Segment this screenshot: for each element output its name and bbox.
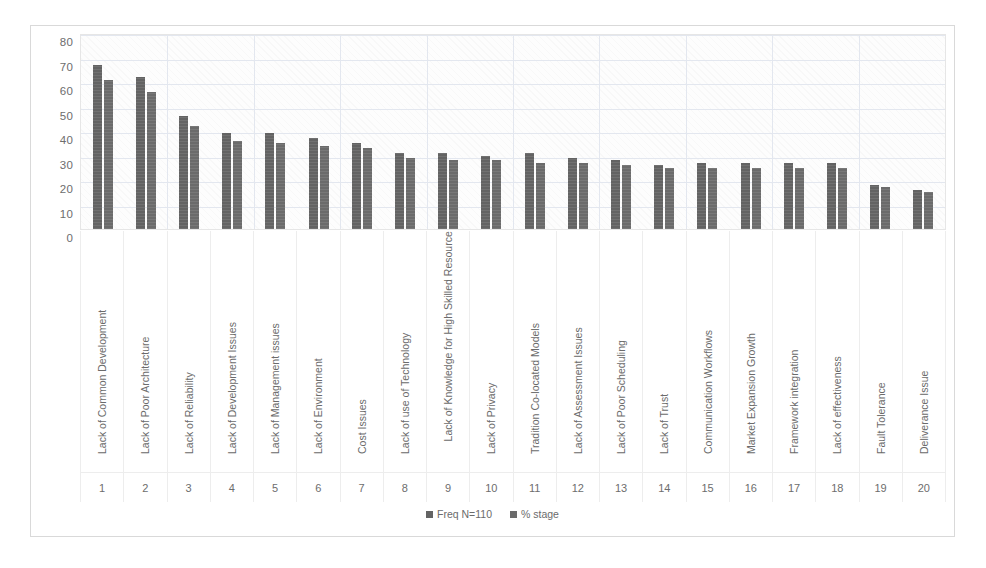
bar-freq [179, 116, 188, 229]
bar-freq [697, 163, 706, 229]
category-label: Tradition Co-located Models [529, 323, 541, 454]
index-label: 7 [341, 473, 384, 502]
bar-pct [622, 165, 631, 229]
bar-pct [147, 92, 156, 229]
category-label: Lack of Environment [312, 358, 324, 454]
category-label-band: Lack of Common DevelopmentLack of Poor A… [80, 231, 946, 472]
bar-group [643, 35, 686, 229]
bar-freq [481, 156, 490, 230]
index-label: 4 [211, 473, 254, 502]
index-label: 10 [470, 473, 513, 502]
category-label: Lack of Knowledge for High Skilled Resou… [442, 231, 454, 454]
bar-group [167, 35, 210, 229]
y-tick-label: 0 [66, 232, 73, 244]
category-label: Lack of Poor Scheduling [615, 340, 627, 454]
index-label: 16 [730, 473, 773, 502]
y-axis: 80706050403020100 [37, 34, 73, 230]
figure-page: 80706050403020100 Lack of Common Develop… [0, 0, 986, 568]
bar-pct [363, 148, 372, 229]
bar-pct [104, 80, 113, 229]
category-cell: Market Expansion Growth [730, 231, 773, 472]
index-label: 2 [124, 473, 167, 502]
bar-group [340, 35, 383, 229]
bar-group [124, 35, 167, 229]
category-label: Lack of use of Technology [399, 333, 411, 454]
category-cell: Lack of use of Technology [384, 231, 427, 472]
y-tick-label: 50 [60, 110, 73, 122]
category-label: Market Expansion Growth [745, 333, 757, 454]
bar-pct [795, 168, 804, 229]
bar-group [81, 35, 124, 229]
bar-freq [265, 133, 274, 229]
index-label: 11 [514, 473, 557, 502]
legend-item[interactable]: Freq N=110 [426, 508, 492, 520]
bar-freq [136, 77, 145, 229]
bar-group [211, 35, 254, 229]
bar-freq [352, 143, 361, 229]
category-cell: Lack of Poor Scheduling [600, 231, 643, 472]
index-label: 6 [297, 473, 340, 502]
bar-freq [654, 165, 663, 229]
y-tick-label: 40 [60, 134, 73, 146]
index-label: 19 [860, 473, 903, 502]
index-label: 20 [903, 473, 946, 502]
index-number-row: 1234567891011121314151617181920 [80, 472, 946, 502]
index-label: 3 [168, 473, 211, 502]
bar-freq [222, 133, 231, 229]
chart-frame: 80706050403020100 Lack of Common Develop… [30, 25, 955, 537]
y-tick-label: 80 [60, 36, 73, 48]
bar-pct [233, 141, 242, 229]
bar-freq [870, 185, 879, 229]
index-label: 13 [600, 473, 643, 502]
bar-freq [525, 153, 534, 229]
bar-pct [838, 168, 847, 229]
legend-swatch-icon [426, 511, 433, 518]
category-label: Lack of Reliability [183, 372, 195, 454]
category-label: Cost Issues [356, 399, 368, 454]
index-label: 14 [643, 473, 686, 502]
bar-group [556, 35, 599, 229]
category-cell: Framework integration [773, 231, 816, 472]
index-label: 9 [427, 473, 470, 502]
bar-pct [579, 163, 588, 229]
bar-group [686, 35, 729, 229]
legend-label: % stage [521, 508, 559, 520]
category-label: Lack of Assessment Issues [572, 327, 584, 454]
bar-freq [784, 163, 793, 229]
category-cell: Cost Issues [341, 231, 384, 472]
bar-pct [276, 143, 285, 229]
category-label: Lack of Privacy [485, 383, 497, 454]
bar-group [599, 35, 642, 229]
category-cell: Lack of Management issues [254, 231, 297, 472]
bar-freq [611, 160, 620, 229]
legend-item[interactable]: % stage [510, 508, 559, 520]
y-tick-label: 70 [60, 61, 73, 73]
y-tick-label: 10 [60, 208, 73, 220]
bar-group [297, 35, 340, 229]
chart-legend: Freq N=110% stage [31, 508, 954, 520]
bar-pct [924, 192, 933, 229]
legend-swatch-icon [510, 511, 517, 518]
category-cell: Lack of Knowledge for High Skilled Resou… [427, 231, 470, 472]
category-cell: Lack of Development Issues [211, 231, 254, 472]
category-label: Framework integration [788, 350, 800, 454]
bar-group [383, 35, 426, 229]
bar-pct [752, 168, 761, 229]
category-cell: Deliverance Issue [903, 231, 946, 472]
category-label: Lack of Poor Architecture [139, 337, 151, 454]
y-tick-label: 30 [60, 159, 73, 171]
category-label: Lack of Management issues [269, 323, 281, 454]
bar-freq [395, 153, 404, 229]
bar-group [902, 35, 945, 229]
legend-label: Freq N=110 [437, 508, 492, 520]
category-cell: Lack of Trust [643, 231, 686, 472]
bar-group [254, 35, 297, 229]
index-label: 1 [80, 473, 124, 502]
bars-layer [81, 35, 945, 229]
bar-pct [320, 146, 329, 229]
bar-group [772, 35, 815, 229]
bar-freq [827, 163, 836, 229]
plot-area [80, 34, 946, 230]
bar-pct [449, 160, 458, 229]
bar-freq [741, 163, 750, 229]
